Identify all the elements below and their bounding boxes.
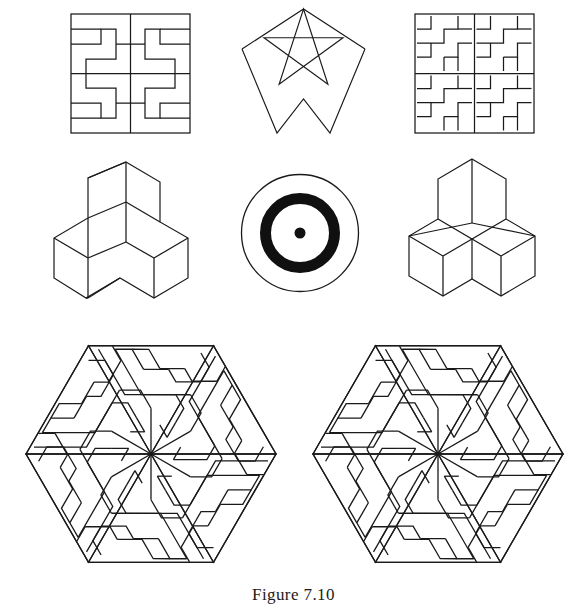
isometric-tripod-left-art xyxy=(54,162,188,298)
pentagram-star xyxy=(232,0,377,148)
concentric-target xyxy=(232,165,368,301)
pentagram-star-art xyxy=(242,9,365,133)
hexagon-meander-left xyxy=(20,338,282,570)
square-meander-quadrant-art xyxy=(71,14,190,133)
square-meander-four-tiles-art xyxy=(415,14,534,133)
isometric-tripod-right-art xyxy=(409,159,535,296)
concentric-target-art xyxy=(242,175,359,292)
isometric-tripod-right xyxy=(398,148,553,303)
hexagon-meander-left-art xyxy=(0,292,307,605)
centre-dot xyxy=(295,228,306,239)
figure-caption: Figure 7.10 xyxy=(0,585,587,605)
square-meander-quadrant xyxy=(56,0,206,150)
hexagon-meander-right xyxy=(307,338,569,570)
square-meander-four-tiles xyxy=(400,0,550,150)
isometric-tripod-left xyxy=(52,150,207,305)
hexagon-meander-right-art xyxy=(282,292,587,605)
